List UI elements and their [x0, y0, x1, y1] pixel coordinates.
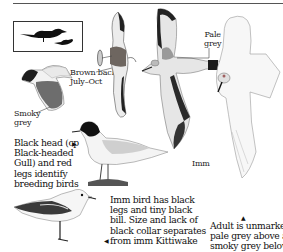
- triangle-arrow-icon: ◀: [104, 238, 109, 244]
- standing-immature-illustration: [12, 185, 102, 245]
- flying-brown-back-illustration: [92, 10, 142, 125]
- flying-adult-unmarked-illustration: [210, 12, 283, 182]
- bird-silhouette-icon: [14, 22, 82, 51]
- caption-adult: Adult is unmarked - pale grey above and …: [210, 221, 283, 252]
- triangle-arrow-icon: ▶: [72, 141, 77, 147]
- pointer-line: [36, 105, 56, 115]
- size-comparison-box: [13, 21, 83, 52]
- caption-breeding: Black head (cp Black-headed Gull) and re…: [14, 138, 79, 189]
- triangle-arrow-icon: ▲: [241, 215, 246, 221]
- label-imm: Imm: [192, 159, 210, 168]
- caption-immature: Imm bird has black legs and tiny black b…: [110, 195, 206, 246]
- top-rule: [13, 3, 283, 4]
- standing-breeding-adult-illustration: [72, 118, 172, 188]
